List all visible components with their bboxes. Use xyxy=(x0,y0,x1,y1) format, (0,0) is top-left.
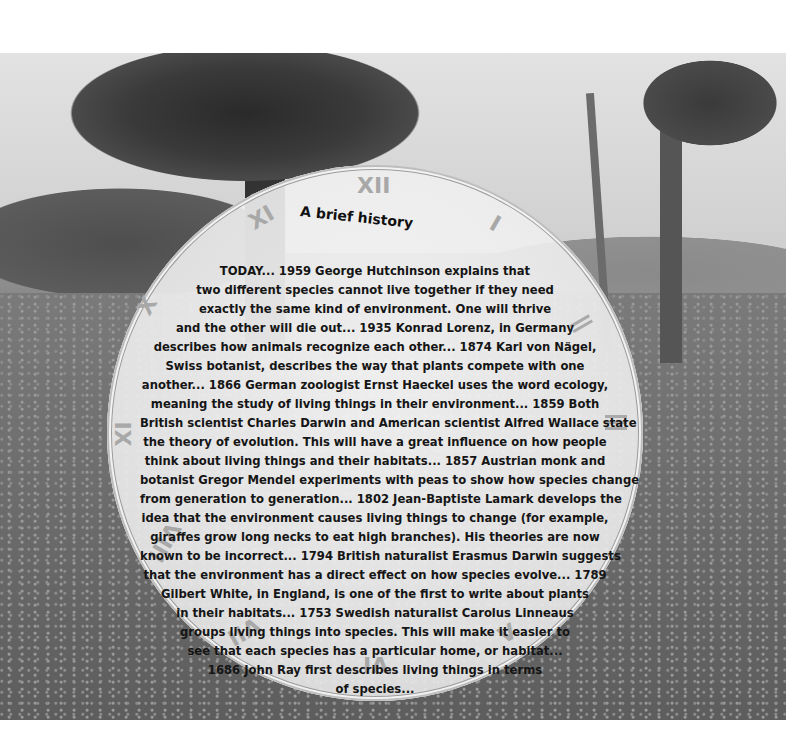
text-line: Swiss botanist, describes the way that p… xyxy=(140,357,610,376)
text-line: known to be incorrect... 1794 British na… xyxy=(140,547,610,566)
text-line: and the other will die out... 1935 Konra… xyxy=(140,319,610,338)
text-line: 1686 John Ray first describes living thi… xyxy=(140,661,610,680)
text-line: groups living things into species. This … xyxy=(140,623,610,642)
text-line: of species... xyxy=(140,680,610,699)
numeral-ix: IX xyxy=(111,421,133,446)
text-line: British scientist Charles Darwin and Ame… xyxy=(140,414,610,433)
text-line: idea that the environment causes living … xyxy=(140,509,610,528)
text-line: meaning the study of living things in th… xyxy=(140,395,610,414)
text-line: think about living things and their habi… xyxy=(140,452,610,471)
text-line: describes how animals recognize each oth… xyxy=(140,338,610,357)
text-line: in their habitats... 1753 Swedish natura… xyxy=(140,604,610,623)
text-line: giraffes grow long necks to eat high bra… xyxy=(140,528,610,547)
text-line: that the environment has a direct effect… xyxy=(140,566,610,585)
text-line: the theory of evolution. This will have … xyxy=(140,433,610,452)
text-line: another... 1866 German zoologist Ernst H… xyxy=(140,376,610,395)
history-timeline-text: TODAY... 1959 George Hutchinson explains… xyxy=(140,262,610,699)
numeral-i: I xyxy=(486,212,504,235)
text-line: TODAY... 1959 George Hutchinson explains… xyxy=(140,262,610,281)
text-line: exactly the same kind of environment. On… xyxy=(140,300,610,319)
text-line: see that each species has a particular h… xyxy=(140,642,610,661)
text-line: from generation to generation... 1802 Je… xyxy=(140,490,610,509)
tree-canopy-right xyxy=(600,53,786,193)
numeral-xi: XI xyxy=(245,202,278,234)
text-line: Gilbert White, in England, is one of the… xyxy=(140,585,610,604)
text-line: two different species cannot live togeth… xyxy=(140,281,610,300)
numeral-xii: XII xyxy=(357,175,390,197)
text-line: botanist Gregor Mendel experiments with … xyxy=(140,471,610,490)
